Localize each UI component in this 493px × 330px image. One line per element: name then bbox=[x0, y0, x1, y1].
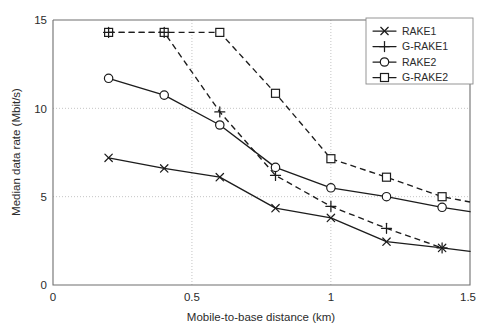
y-tick-label-10: 10 bbox=[34, 103, 47, 115]
line-chart-plot: 15 10 5 0 0 0.5 1 1.5 Mobile-to-base dis… bbox=[0, 0, 493, 330]
legend-label-rake1: RAKE1 bbox=[402, 25, 437, 37]
plus-marker-icon bbox=[382, 223, 392, 233]
x-tick-labels: 0 0.5 1 1.5 bbox=[50, 291, 476, 303]
y-tick-label-15: 15 bbox=[34, 14, 47, 26]
x-tick-label-1: 1 bbox=[328, 291, 334, 303]
y-tick-label-0: 0 bbox=[41, 279, 47, 291]
circle-marker-icon bbox=[327, 184, 335, 192]
x-tick-label-1.5: 1.5 bbox=[460, 291, 476, 303]
chart-figure: 15 10 5 0 0 0.5 1 1.5 Mobile-to-base dis… bbox=[0, 0, 493, 330]
legend-item-g-rake1[interactable]: G-RAKE1 bbox=[373, 40, 448, 52]
square-marker-icon bbox=[272, 89, 280, 97]
circle-marker-icon bbox=[382, 193, 390, 201]
legend-label-rake2: RAKE2 bbox=[402, 56, 437, 68]
square-marker-icon bbox=[381, 74, 389, 82]
legend-label-g-rake1: G-RAKE1 bbox=[402, 40, 448, 52]
y-tick-label-5: 5 bbox=[41, 191, 47, 203]
circle-marker-icon bbox=[438, 203, 446, 211]
square-marker-icon bbox=[383, 173, 391, 181]
circle-marker-icon bbox=[104, 74, 112, 82]
plus-marker-icon bbox=[215, 107, 225, 117]
series-rake2 bbox=[104, 74, 470, 212]
y-axis-title: Median data rate (Mbit/s) bbox=[10, 88, 22, 216]
x-axis-title: Mobile-to-base distance (km) bbox=[187, 311, 335, 323]
y-tick-labels: 15 10 5 0 bbox=[34, 14, 47, 291]
circle-marker-icon bbox=[271, 163, 279, 171]
circle-marker-icon bbox=[380, 58, 388, 66]
plus-marker-icon bbox=[326, 201, 336, 211]
square-marker-icon bbox=[216, 28, 224, 36]
circle-marker-icon bbox=[216, 121, 224, 129]
square-marker-icon bbox=[327, 155, 335, 163]
x-tick-label-0.5: 0.5 bbox=[184, 291, 200, 303]
legend-label-g-rake2: G-RAKE2 bbox=[402, 71, 448, 83]
circle-marker-icon bbox=[160, 91, 168, 99]
x-tick-label-0: 0 bbox=[50, 291, 56, 303]
chart-legend: RAKE1 G-RAKE1 RAKE2 G-RAK bbox=[366, 18, 473, 84]
square-marker-icon bbox=[438, 193, 446, 201]
